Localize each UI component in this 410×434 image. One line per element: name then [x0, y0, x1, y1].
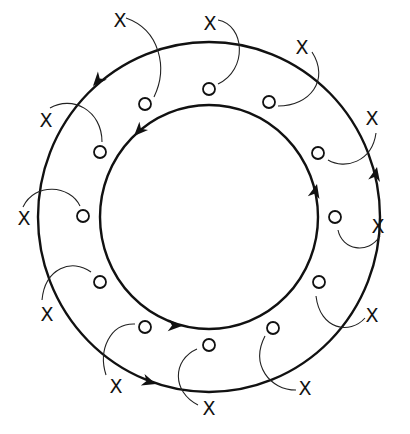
x-marker: X [298, 377, 311, 399]
link-5 [328, 133, 376, 164]
outer-arrow-bottom-icon [141, 374, 158, 390]
x-marker: X [203, 12, 216, 34]
link-6 [23, 189, 80, 207]
o-marker [94, 276, 106, 288]
o-marker [203, 339, 215, 351]
x-marker: X [39, 109, 52, 131]
x-marker: X [365, 304, 378, 326]
o-marker [313, 276, 325, 288]
link-9 [316, 296, 365, 327]
inner-arrow-bottom-icon [168, 319, 183, 332]
link-1 [126, 18, 161, 97]
o-marker [139, 98, 151, 110]
o-marker [329, 211, 341, 223]
x-marker: X [17, 207, 30, 229]
o-marker [77, 210, 89, 222]
o-marker [312, 147, 324, 159]
x-marker: X [371, 215, 384, 237]
x-marker: X [295, 36, 308, 58]
o-markers [77, 83, 341, 351]
inner-loop [100, 105, 318, 329]
o-marker [203, 83, 215, 95]
link-12 [178, 349, 198, 405]
outer-arrow-upper-left-icon [89, 72, 107, 90]
pair-links [23, 18, 380, 405]
x-marker: X [113, 9, 126, 31]
o-marker [263, 96, 275, 108]
o-marker [94, 146, 106, 158]
x-marker: X [365, 107, 378, 129]
x-marker: X [109, 375, 122, 397]
link-2 [218, 20, 239, 84]
o-marker [267, 322, 279, 334]
x-marker: X [40, 303, 53, 325]
x-marker: X [202, 397, 215, 419]
circulation-diagram: X X X X X X X X X X X X [0, 0, 410, 434]
o-marker [139, 321, 151, 333]
